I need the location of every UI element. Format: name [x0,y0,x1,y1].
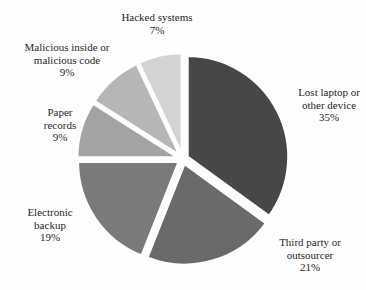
slice-label-line: Electronic [27,206,72,219]
slice-label-percent: 35% [298,111,360,124]
slice-label-line: backup [27,219,72,232]
slice-label-percent: 7% [121,24,192,37]
slice-label-line: outsourcer [279,249,341,262]
slice-label-paper-records: Paper records 9% [44,106,76,144]
slice-label-percent: 19% [27,231,72,244]
slice-label-line: other device [298,99,360,112]
slice-label-line: Lost laptop or [298,86,360,99]
slice-label-line: Hacked systems [121,11,192,24]
slice-label-lost-laptop: Lost laptop or other device 35% [298,86,360,124]
slice-label-percent: 9% [25,66,110,79]
slice-label-third-party: Third party or outsourcer 21% [279,236,341,274]
slice-label-line: records [44,119,76,132]
slice-label-percent: 21% [279,261,341,274]
slice-label-malicious-code: Malicious inside or malicious code 9% [25,41,110,79]
slice-label-line: Paper [44,106,76,119]
slice-label-percent: 9% [44,131,76,144]
slice-label-line: Third party or [279,236,341,249]
slice-label-hacked-systems: Hacked systems 7% [121,11,192,36]
pie-figure: Lost laptop or other device 35% Third pa… [0,0,366,290]
slice-label-line: malicious code [25,54,110,67]
slice-label-line: Malicious inside or [25,41,110,54]
slice-label-electronic-backup: Electronic backup 19% [27,206,72,244]
